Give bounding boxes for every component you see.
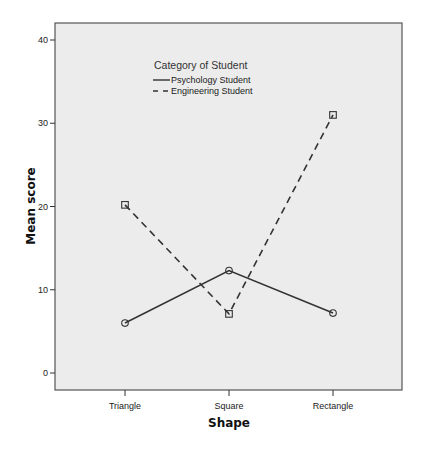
legend-title: Category of Student [154, 59, 247, 71]
x-axis-title: Shape [208, 416, 250, 430]
x-axis: TriangleSquareRectangle [109, 390, 353, 411]
legend-label: Engineering Student [171, 86, 253, 96]
y-axis: 010203040 [38, 35, 55, 378]
y-tick-label: 0 [43, 368, 48, 378]
x-tick-label: Rectangle [313, 401, 354, 411]
legend-label: Psychology Student [171, 75, 251, 85]
y-tick-label: 40 [38, 35, 48, 45]
x-tick-label: Triangle [109, 401, 141, 411]
y-tick-label: 10 [38, 285, 48, 295]
y-tick-label: 30 [38, 118, 48, 128]
line-chart: 010203040TriangleSquareRectangleShapeMea… [0, 0, 422, 450]
x-tick-label: Square [214, 401, 243, 411]
y-tick-label: 20 [38, 202, 48, 212]
y-axis-title: Mean score [24, 167, 38, 244]
